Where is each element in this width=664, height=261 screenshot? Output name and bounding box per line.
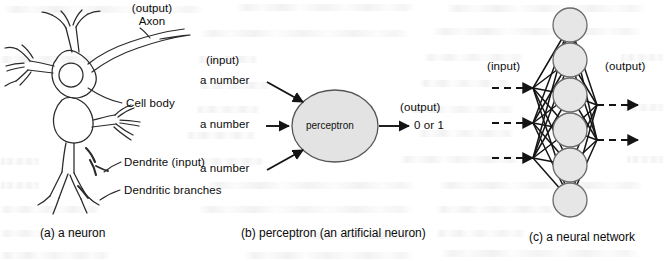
figure-neuron-perceptron-network: (output) Axon Cell body Dendrite (input)… (0, 0, 664, 261)
network-output-header: (output) (605, 60, 645, 73)
network-node (553, 148, 587, 182)
network-node (553, 113, 587, 147)
caption-panel-c: (c) a neural network (529, 230, 635, 244)
network-node (553, 183, 587, 217)
network-node (553, 8, 587, 42)
network-node (553, 43, 587, 77)
network-input-header: (input) (487, 60, 520, 73)
network-node (553, 78, 587, 112)
caption-panel-b: (b) perceptron (an artificial neuron) (241, 226, 426, 240)
caption-panel-a: (a) a neuron (40, 226, 105, 240)
panel-c-neural-network-diagram (0, 0, 664, 261)
